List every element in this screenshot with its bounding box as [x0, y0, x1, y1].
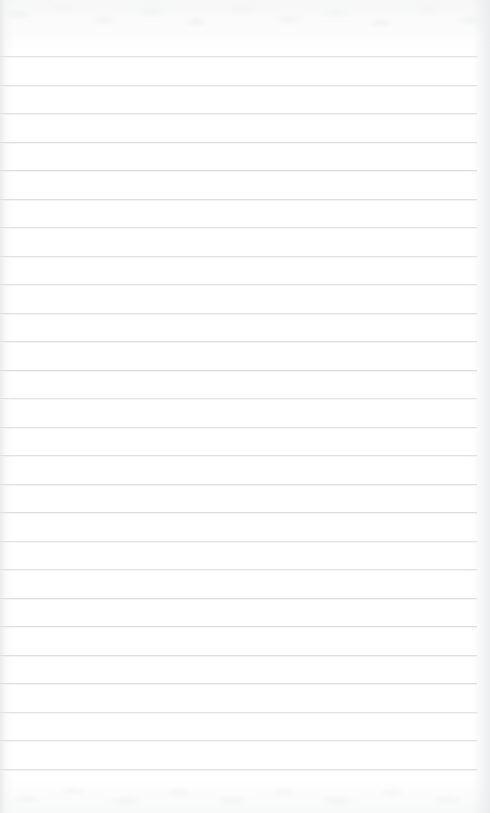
notebook-page	[0, 0, 490, 813]
writing-area[interactable]	[0, 56, 477, 783]
